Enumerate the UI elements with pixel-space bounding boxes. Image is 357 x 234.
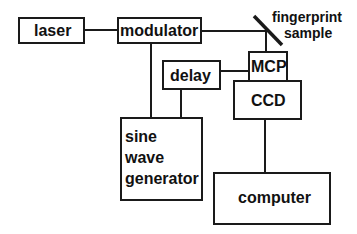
laser-box: laser xyxy=(18,17,85,44)
computer-box: computer xyxy=(213,172,331,225)
modulator-label: modulator xyxy=(120,23,198,39)
mcp-label: MCP xyxy=(251,59,287,75)
ccd-label: CCD xyxy=(251,93,286,109)
sample-label: sample xyxy=(284,26,332,40)
delay-box: delay xyxy=(162,60,221,90)
generator-label: generator xyxy=(125,169,199,189)
ccd-box: CCD xyxy=(233,80,302,120)
modulator-box: modulator xyxy=(117,17,202,44)
mcp-box: MCP xyxy=(248,51,288,82)
wave-label: wave xyxy=(125,148,164,168)
sine-wave-generator-box: sine wave generator xyxy=(120,117,203,201)
laser-label: laser xyxy=(34,23,71,39)
computer-label: computer xyxy=(238,190,311,206)
fingerprint-label: fingerprint xyxy=(272,10,342,24)
sine-label: sine xyxy=(125,127,157,147)
delay-label: delay xyxy=(170,68,211,84)
